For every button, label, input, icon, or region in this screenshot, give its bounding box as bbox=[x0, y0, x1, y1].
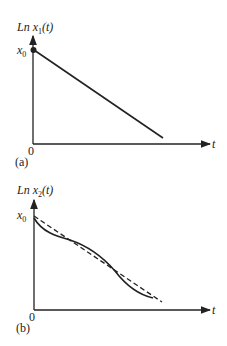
x-axis-label: t bbox=[212, 303, 216, 317]
y-tick-x0: x0 bbox=[16, 208, 26, 224]
data-line bbox=[34, 50, 163, 138]
reference-dashed-line bbox=[34, 216, 162, 302]
y-tick-x0: x0 bbox=[16, 43, 26, 59]
y-axis-label: Ln x2(t) bbox=[16, 183, 53, 199]
chart-panel-a: Ln x1(t) x0 t 0 (a) bbox=[15, 20, 216, 169]
chart-panel-b: Ln x2(t) x0 t 0 (b) bbox=[16, 183, 216, 335]
data-curve bbox=[34, 218, 153, 298]
figure: Ln x1(t) x0 t 0 (a) Ln x2(t) x0 t 0 (b) bbox=[0, 0, 227, 346]
start-point-marker bbox=[31, 47, 37, 53]
panel-label: (a) bbox=[15, 155, 28, 169]
panel-label: (b) bbox=[16, 321, 30, 335]
y-axis-label: Ln x1(t) bbox=[16, 20, 53, 36]
x-axis-label: t bbox=[212, 137, 216, 151]
origin-label: 0 bbox=[28, 144, 34, 158]
